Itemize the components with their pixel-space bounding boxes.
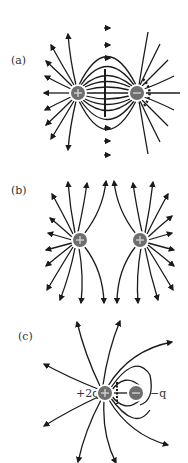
panel-b-two-positive: [46, 181, 174, 303]
panel-a-dipole: [44, 28, 180, 155]
panel-c-unequal: [44, 321, 172, 463]
field-lines-diagram: [0, 0, 188, 463]
